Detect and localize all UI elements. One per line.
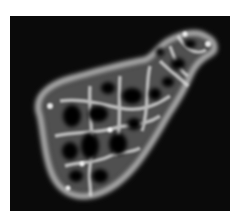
cell-image	[10, 16, 230, 211]
micrograph-panel	[10, 16, 230, 211]
